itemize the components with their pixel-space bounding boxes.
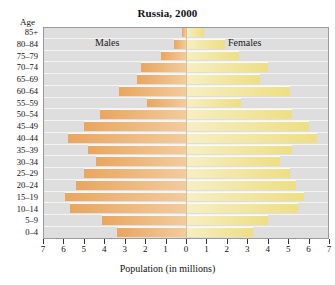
age-tick-label: 60–64 — [17, 86, 38, 98]
age-tick-label: 85+ — [25, 27, 38, 39]
bar-female-60-64 — [186, 86, 290, 96]
bar-female-0-4 — [186, 227, 253, 237]
legend-label-males: Males — [95, 37, 119, 48]
chart-title: Russia, 2000 — [0, 7, 335, 19]
age-tick-label: 15–19 — [17, 192, 38, 204]
bar-female-30-34 — [186, 156, 280, 166]
bar-female-80-84 — [186, 39, 225, 49]
age-tick-label: 75–79 — [17, 51, 38, 63]
bar-female-75-79 — [186, 51, 239, 61]
age-tick-label: 55–59 — [17, 98, 38, 110]
age-tick-label: 30–34 — [17, 157, 38, 169]
bar-female-15-19 — [186, 192, 304, 202]
bar-male-0-4 — [117, 227, 186, 237]
bar-female-20-24 — [186, 180, 296, 190]
bar-female-40-44 — [186, 133, 317, 143]
bar-male-25-29 — [84, 168, 186, 178]
age-tick-label: 0–4 — [25, 227, 38, 239]
age-tick-label: 25–29 — [17, 168, 38, 180]
bar-female-10-14 — [186, 203, 298, 213]
bar-female-70-74 — [186, 62, 268, 72]
bar-female-50-54 — [186, 109, 292, 119]
population-tick-label: 2 — [138, 244, 152, 254]
population-tick-label: 5 — [77, 244, 91, 254]
population-tick-label: 6 — [302, 244, 316, 254]
bar-male-55-59 — [147, 98, 186, 108]
x-axis-title: Population (in millions) — [0, 263, 335, 274]
bar-male-60-64 — [119, 86, 186, 96]
plot-area — [43, 27, 329, 239]
age-tick-label: 40–44 — [17, 133, 38, 145]
population-tick-label: 2 — [220, 244, 234, 254]
bar-male-5-9 — [102, 215, 186, 225]
bar-female-25-29 — [186, 168, 290, 178]
age-axis-title: Age — [20, 17, 50, 27]
population-tick-label: 4 — [261, 244, 275, 254]
population-tick-label: 5 — [281, 244, 295, 254]
bar-female-85+ — [186, 27, 204, 37]
bar-female-5-9 — [186, 215, 268, 225]
population-tick-label: 7 — [36, 244, 50, 254]
population-tick-label: 1 — [199, 244, 213, 254]
age-axis: 85+80–8475–7970–7465–6960–6455–5950–5445… — [0, 27, 40, 239]
bar-male-70-74 — [141, 62, 186, 72]
bar-female-45-49 — [186, 121, 309, 131]
age-tick-label: 65–69 — [17, 74, 38, 86]
bar-male-80-84 — [174, 39, 186, 49]
bar-male-30-34 — [96, 156, 186, 166]
bar-male-75-79 — [161, 51, 186, 61]
population-tick-label: 7 — [322, 244, 335, 254]
center-axis-line — [186, 27, 187, 239]
bar-male-40-44 — [68, 133, 186, 143]
bar-male-20-24 — [76, 180, 186, 190]
age-tick-label: 10–14 — [17, 204, 38, 216]
population-tick-label: 1 — [159, 244, 173, 254]
population-axis: 765432101234567 — [43, 239, 329, 261]
population-tick-label: 6 — [56, 244, 70, 254]
population-tick-label: 0 — [179, 244, 193, 254]
population-pyramid-figure: Russia, 2000 Age 85+80–8475–7970–7465–69… — [0, 0, 335, 285]
bar-male-15-19 — [65, 192, 186, 202]
bar-male-65-69 — [137, 74, 186, 84]
bar-male-50-54 — [100, 109, 186, 119]
legend-label-females: Females — [228, 37, 261, 48]
age-tick-label: 35–39 — [17, 145, 38, 157]
population-tick-label: 4 — [97, 244, 111, 254]
age-tick-label: 50–54 — [17, 109, 38, 121]
bar-female-55-59 — [186, 98, 241, 108]
bar-female-35-39 — [186, 145, 292, 155]
age-tick-label: 5–9 — [25, 215, 38, 227]
age-tick-label: 20–24 — [17, 180, 38, 192]
bar-male-45-49 — [84, 121, 186, 131]
age-tick-label: 45–49 — [17, 121, 38, 133]
age-tick-label: 70–74 — [17, 62, 38, 74]
population-tick-label: 3 — [240, 244, 254, 254]
bar-female-65-69 — [186, 74, 260, 84]
population-tick-label: 3 — [118, 244, 132, 254]
age-tick-label: 80–84 — [17, 39, 38, 51]
bar-male-10-14 — [70, 203, 186, 213]
bar-male-35-39 — [88, 145, 186, 155]
